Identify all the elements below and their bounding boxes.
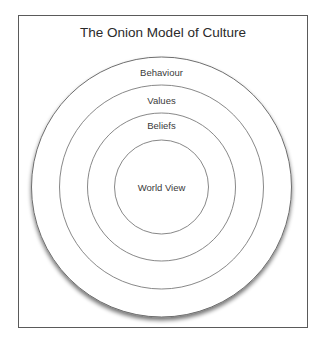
onion-diagram xyxy=(0,0,328,345)
layer-label-beliefs: Beliefs xyxy=(102,120,222,131)
layer-label-world-view: World View xyxy=(102,182,222,193)
layer-label-values: Values xyxy=(102,95,222,106)
layer-label-behaviour: Behaviour xyxy=(102,67,222,78)
